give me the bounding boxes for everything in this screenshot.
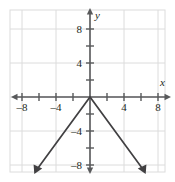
axes xyxy=(11,8,171,174)
y-tick-label-neg4: –4 xyxy=(70,125,83,137)
x-tick-label-neg4: –4 xyxy=(50,101,63,113)
y-tick-label-pos4: 4 xyxy=(77,57,83,69)
y-axis-name-label: y xyxy=(94,9,100,21)
graph-canvas: –8 –4 4 8 8 4 –4 –8 x y xyxy=(0,0,175,182)
y-tick-label-neg8: –8 xyxy=(70,159,83,171)
curve-arrow-left-icon xyxy=(34,165,43,174)
x-axis-name-label: x xyxy=(159,76,165,88)
x-tick-label-pos8: 8 xyxy=(155,101,161,113)
curve-arrow-right-icon xyxy=(138,165,147,174)
coordinate-plane-figure: –8 –4 4 8 8 4 –4 –8 x y xyxy=(0,0,175,182)
y-axis-arrow-down-icon xyxy=(87,168,93,175)
x-tick-label-neg8: –8 xyxy=(16,101,29,113)
x-tick-label-pos4: 4 xyxy=(121,101,127,113)
axis-name-labels: x y xyxy=(94,9,165,88)
x-axis-arrow-left-icon xyxy=(11,94,18,100)
y-axis-arrow-up-icon xyxy=(87,8,93,15)
y-tick-label-pos8: 8 xyxy=(77,23,83,35)
x-axis-arrow-right-icon xyxy=(165,94,172,100)
